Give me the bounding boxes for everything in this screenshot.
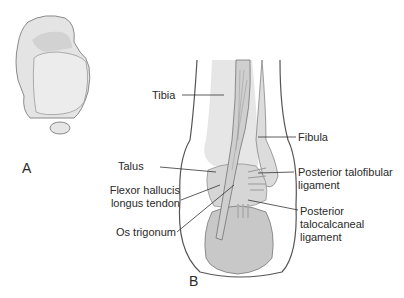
label-flexor-hallucis-longus-tendon: Flexor hallucis longus tendon (92, 184, 180, 210)
label-line: Posterior (300, 205, 364, 218)
anatomy-illustration (0, 0, 404, 298)
panel-a-talus-drawing (16, 16, 90, 134)
panel-label-a: A (22, 160, 31, 176)
label-line: Flexor hallucis (92, 184, 180, 197)
label-line: ligament (298, 179, 393, 192)
label-os-trigonum: Os trigonum (116, 226, 176, 239)
label-line: Posterior talofibular (298, 166, 393, 179)
label-fibula: Fibula (298, 131, 328, 144)
label-posterior-talofibular-ligament: Posterior talofibular ligament (298, 166, 393, 192)
panel-label-b: B (189, 273, 198, 289)
label-line: longus tendon (92, 197, 180, 210)
label-posterior-talocalcaneal-ligament: Posterior talocalcaneal ligament (300, 205, 364, 244)
label-tibia: Tibia (152, 89, 175, 102)
label-talus: Talus (118, 160, 144, 173)
label-line: ligament (300, 231, 364, 244)
label-line: talocalcaneal (300, 218, 364, 231)
panel-b-ankle-drawing (179, 60, 296, 277)
